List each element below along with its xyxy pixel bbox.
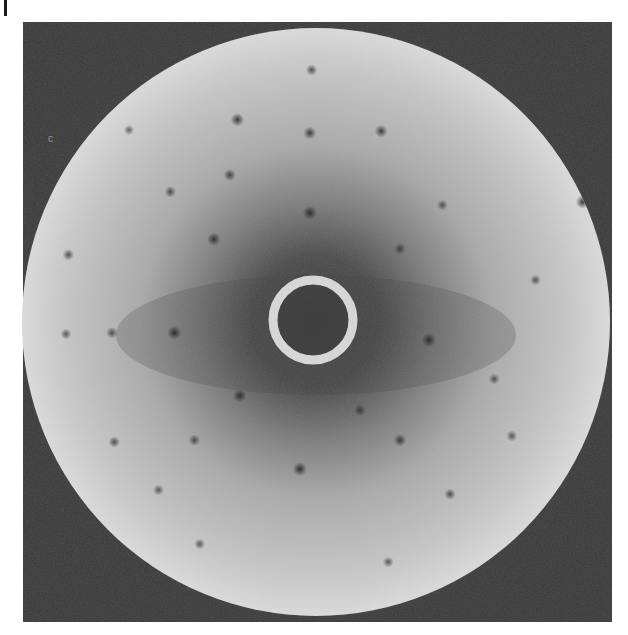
diffraction-spot	[164, 186, 176, 198]
diffraction-spot	[375, 125, 388, 138]
ring-center	[278, 285, 348, 355]
diffraction-figure: c	[0, 0, 628, 635]
diffraction-spot	[354, 404, 366, 416]
diffraction-spot	[437, 200, 448, 211]
diffraction-spot	[306, 64, 318, 76]
diffraction-spot	[108, 436, 120, 448]
diffraction-spot	[153, 485, 164, 496]
diffraction-spot	[233, 389, 246, 402]
diffraction-spot	[167, 326, 181, 340]
diffraction-spot	[189, 434, 201, 446]
diffraction-spot	[394, 434, 407, 447]
diffraction-spot	[506, 431, 517, 442]
diffraction-spot	[231, 113, 244, 126]
diffraction-spot	[293, 462, 307, 476]
diffraction-spot	[394, 243, 406, 255]
diffraction-spot	[124, 125, 134, 135]
diffraction-spot	[106, 327, 118, 339]
diffraction-spot	[444, 488, 456, 500]
diffraction-spot	[207, 233, 220, 246]
diffraction-spot	[383, 557, 394, 568]
diffraction-spot	[60, 329, 71, 340]
diffraction-spot	[530, 275, 541, 286]
diffraction-spot	[303, 206, 317, 220]
diffraction-spot	[489, 374, 500, 385]
diffraction-spot	[224, 169, 236, 181]
diffraction-spot	[63, 249, 75, 261]
corner-mark: c	[48, 133, 53, 144]
diffraction-spot	[303, 127, 316, 140]
diffraction-spot	[194, 539, 205, 550]
diffraction-spot	[422, 333, 436, 347]
